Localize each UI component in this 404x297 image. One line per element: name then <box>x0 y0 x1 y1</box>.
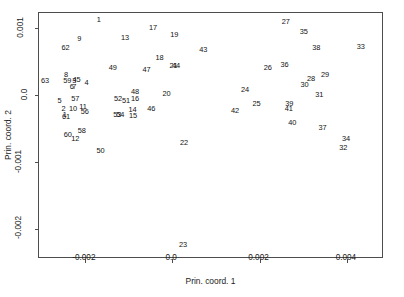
data-point-label: 46 <box>147 105 155 112</box>
data-point-label: 54 <box>116 112 124 119</box>
data-point-label: 17 <box>149 25 157 32</box>
data-point-label: 19 <box>170 31 178 38</box>
data-point-label: 49 <box>109 65 117 72</box>
data-point-label: 52 <box>114 95 122 102</box>
y-axis-title-text: Prin. coord. 2 <box>3 110 13 160</box>
data-point-label: 24 <box>241 86 249 93</box>
data-point-label: 36 <box>280 61 288 68</box>
data-point-label: 57 <box>71 95 79 102</box>
y-tick <box>35 28 39 29</box>
data-point-label: 62 <box>62 45 70 52</box>
data-point-label: 34 <box>342 136 350 143</box>
data-point-label: 32 <box>339 144 347 151</box>
data-point-label: 42 <box>231 108 239 115</box>
data-point-label: 10 <box>69 106 77 113</box>
data-point-label: 7 <box>72 83 76 90</box>
data-point-label: 26 <box>264 65 272 72</box>
data-point-label: 31 <box>315 91 323 98</box>
data-point-label: 56 <box>81 108 89 115</box>
data-point-label: 9 <box>77 35 81 42</box>
data-point-label: 43 <box>199 47 207 54</box>
data-point-label: 41 <box>285 106 293 113</box>
data-point-label: 35 <box>300 29 308 36</box>
data-point-label: 29 <box>321 71 329 78</box>
data-point-label: 12 <box>71 135 79 142</box>
data-point-label: 30 <box>301 81 309 88</box>
data-point-label: 40 <box>288 120 296 127</box>
data-point-label: 44 <box>172 63 180 70</box>
data-point-label: 13 <box>121 35 129 42</box>
scatter-plot-figure: 1172791319356243383318494721442636292863… <box>0 0 404 297</box>
data-point-label: 23 <box>179 241 187 248</box>
x-tick-label: 0.004 <box>336 253 357 262</box>
y-tick <box>35 229 39 230</box>
data-point-label: 33 <box>357 43 365 50</box>
y-axis-title: Prin. coord. 2 <box>2 12 14 258</box>
data-point-label: 4 <box>85 79 89 86</box>
x-axis-title: Prin. coord. 1 <box>38 276 383 286</box>
data-point-label: 27 <box>282 18 290 25</box>
x-tick-label: 0.002 <box>248 253 269 262</box>
data-point-label: 1 <box>97 16 101 23</box>
y-tick <box>35 95 39 96</box>
data-point-label: 38 <box>312 45 320 52</box>
data-point-label: 37 <box>318 124 326 131</box>
y-tick <box>35 162 39 163</box>
data-point-label: 51 <box>122 98 130 105</box>
data-point-label: 1 <box>63 111 67 118</box>
data-point-label: 47 <box>142 66 150 73</box>
x-tick-label: 0.0 <box>165 253 176 262</box>
data-point-label: 25 <box>252 100 260 107</box>
x-tick-label: -0.002 <box>72 253 95 262</box>
data-point-label: 15 <box>129 112 137 119</box>
data-point-label: 63 <box>41 77 49 84</box>
data-point-label: 5 <box>58 97 62 104</box>
data-point-label: 20 <box>163 90 171 97</box>
data-point-label: 18 <box>156 55 164 62</box>
plot-frame: 1172791319356243383318494721442636292863… <box>38 12 383 258</box>
data-point-label: 16 <box>131 95 139 102</box>
data-point-label: 22 <box>180 139 188 146</box>
data-point-label: 50 <box>97 148 105 155</box>
plot-data-area: 1172791319356243383318494721442636292863… <box>39 13 382 257</box>
